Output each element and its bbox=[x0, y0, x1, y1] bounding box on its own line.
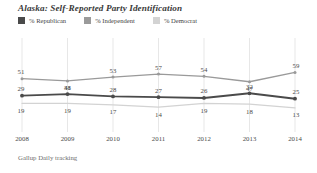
data-point bbox=[66, 79, 69, 82]
data-value-label: 19 bbox=[64, 107, 71, 114]
x-axis-tick-label: 2011 bbox=[152, 135, 165, 142]
legend-item-republican: % Republican bbox=[18, 17, 66, 24]
data-point bbox=[111, 95, 115, 99]
chart-legend: % Republican % Independent % Democrat bbox=[18, 17, 197, 24]
data-value-label: 14 bbox=[155, 111, 162, 118]
data-value-label: 25 bbox=[293, 88, 300, 95]
data-value-label: 26 bbox=[201, 87, 208, 94]
data-point bbox=[294, 71, 297, 74]
legend-label-republican: % Republican bbox=[29, 17, 66, 24]
x-axis-tick-label: 2010 bbox=[106, 135, 120, 142]
data-point bbox=[20, 94, 24, 98]
legend-item-democrat: % Democrat bbox=[153, 17, 197, 24]
legend-item-independent: % Independent bbox=[84, 17, 135, 24]
data-value-label: 17 bbox=[110, 108, 117, 115]
data-value-label: 29 bbox=[18, 85, 25, 92]
chart-page: Alaska: Self-Reported Party Identificati… bbox=[0, 0, 317, 173]
data-value-label: 18 bbox=[246, 108, 253, 115]
data-value-label: 54 bbox=[201, 66, 208, 73]
legend-swatch-independent bbox=[84, 17, 91, 24]
x-axis: 2008200920102011201220132014 bbox=[0, 135, 317, 147]
data-value-label: 27 bbox=[155, 87, 162, 94]
data-value-label: 57 bbox=[155, 64, 162, 71]
data-point bbox=[293, 97, 297, 101]
legend-label-democrat: % Democrat bbox=[164, 17, 197, 24]
data-point bbox=[203, 75, 206, 78]
data-point bbox=[157, 73, 160, 76]
data-value-label: 19 bbox=[18, 107, 25, 114]
data-value-label: 51 bbox=[18, 68, 25, 75]
data-point bbox=[202, 96, 206, 100]
data-value-label: 28 bbox=[110, 86, 117, 93]
data-point bbox=[21, 77, 24, 80]
data-value-label: 47 bbox=[246, 85, 253, 92]
plot-area: 2931282726322551485357544759191917141918… bbox=[0, 36, 317, 136]
data-point bbox=[157, 95, 161, 99]
legend-swatch-democrat bbox=[153, 17, 160, 24]
x-axis-tick-label: 2013 bbox=[243, 135, 257, 142]
data-value-label: 59 bbox=[293, 62, 300, 69]
x-axis-tick-label: 2014 bbox=[288, 135, 302, 142]
legend-label-independent: % Independent bbox=[95, 17, 135, 24]
data-value-label: 53 bbox=[110, 67, 117, 74]
legend-swatch-republican bbox=[18, 17, 25, 24]
value-labels-layer: 2931282726322551485357544759191917141918… bbox=[18, 62, 300, 118]
data-value-label: 19 bbox=[201, 107, 208, 114]
data-point bbox=[112, 76, 115, 79]
gridlines bbox=[22, 38, 295, 132]
data-value-label: 48 bbox=[64, 84, 71, 91]
line-chart-svg: 2931282726322551485357544759191917141918… bbox=[0, 36, 317, 136]
x-axis-tick-label: 2012 bbox=[197, 135, 211, 142]
source-note: Gallup Daily tracking bbox=[18, 154, 77, 161]
data-point bbox=[66, 92, 70, 96]
x-axis-tick-label: 2009 bbox=[61, 135, 75, 142]
data-value-label: 13 bbox=[293, 111, 300, 118]
x-axis-tick-label: 2008 bbox=[15, 135, 29, 142]
page-title: Alaska: Self-Reported Party Identificati… bbox=[18, 3, 182, 13]
